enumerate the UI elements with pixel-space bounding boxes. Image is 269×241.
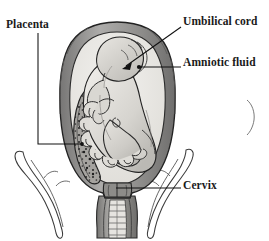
figure-canvas: Placenta Umbilical cord Amniotic fluid C…: [0, 0, 269, 241]
dot-amniotic-fluid: [137, 65, 141, 69]
pelvic-rim-sliver-icon: [247, 100, 254, 135]
label-cervix: Cervix: [183, 179, 217, 191]
label-placenta: Placenta: [6, 18, 49, 30]
vaginal-canal: [97, 196, 138, 238]
cervix-structure: [103, 183, 131, 197]
label-umbilical-cord: Umbilical cord: [183, 15, 258, 27]
dot-placenta: [80, 142, 84, 146]
pelvis-left-bone: [15, 151, 70, 238]
label-amniotic-fluid: Amniotic fluid: [183, 56, 256, 68]
anatomy-illustration: [0, 0, 269, 241]
